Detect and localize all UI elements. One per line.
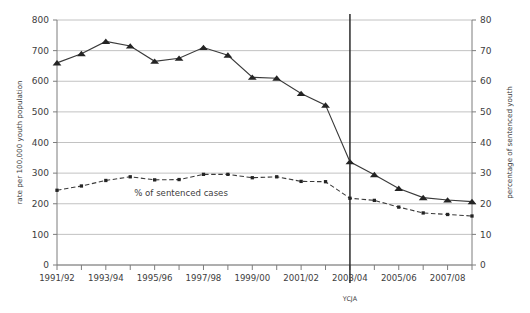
- x-tick-label: 1991/92: [39, 273, 75, 283]
- right-tick-label: 80: [480, 15, 492, 25]
- series-label-sentenced-cases: % of sentenced cases: [134, 188, 228, 198]
- left-axis-title: rate per 100,000 youth population: [15, 80, 24, 204]
- left-tick-label: 700: [32, 46, 49, 56]
- data-point-marker: [80, 184, 83, 187]
- gridlines: [57, 20, 472, 265]
- left-tick-label: 0: [43, 260, 49, 270]
- event-marker-ycja: YCJA: [342, 14, 358, 303]
- data-point-marker: [446, 213, 449, 216]
- data-point-marker: [202, 173, 205, 176]
- series-line-2: [57, 174, 472, 216]
- data-point-marker: [348, 197, 351, 200]
- left-tick-label: 200: [32, 199, 49, 209]
- data-point-marker: [226, 173, 229, 176]
- x-tick-label: 2007/08: [430, 273, 466, 283]
- left-tick-label: 400: [32, 138, 49, 148]
- left-tick-label: 500: [32, 107, 49, 117]
- right-tick-label: 60: [480, 76, 492, 86]
- left-tick-label: 600: [32, 76, 49, 86]
- chart-container: 0100200300400500600700800 01020304050607…: [0, 0, 530, 313]
- x-axis: 1991/921993/941995/961997/981999/002001/…: [39, 265, 472, 283]
- right-tick-label: 20: [480, 199, 492, 209]
- x-tick-label: 1993/94: [88, 273, 124, 283]
- x-tick-label: 1999/00: [234, 273, 270, 283]
- data-point-marker: [346, 159, 355, 164]
- data-point-marker: [422, 211, 425, 214]
- left-tick-label: 800: [32, 15, 49, 25]
- data-point-marker: [104, 179, 107, 182]
- x-tick-label: 2005/06: [381, 273, 417, 283]
- data-point-marker: [129, 175, 132, 178]
- chart-annotations: % of sentenced cases: [134, 188, 228, 198]
- right-tick-label: 0: [480, 260, 486, 270]
- data-point-marker: [299, 180, 302, 183]
- data-point-marker: [153, 178, 156, 181]
- data-point-marker: [397, 205, 400, 208]
- right-axis: 01020304050607080: [472, 15, 492, 270]
- ycja-label: YCJA: [342, 295, 358, 303]
- left-tick-label: 100: [32, 230, 49, 240]
- right-tick-label: 40: [480, 138, 492, 148]
- right-tick-label: 10: [480, 230, 492, 240]
- x-tick-label: 1997/98: [186, 273, 222, 283]
- data-point-marker: [373, 199, 376, 202]
- data-point-marker: [251, 176, 254, 179]
- data-series: [53, 39, 477, 218]
- data-point-marker: [470, 214, 473, 217]
- right-tick-label: 30: [480, 168, 492, 178]
- data-point-marker: [55, 189, 58, 192]
- right-tick-label: 50: [480, 107, 492, 117]
- x-tick-label: 1995/96: [137, 273, 173, 283]
- chart-canvas: 0100200300400500600700800 01020304050607…: [0, 0, 530, 313]
- right-tick-label: 70: [480, 46, 492, 56]
- data-point-marker: [199, 45, 208, 50]
- data-point-marker: [101, 39, 110, 44]
- right-axis-title: percentage of sentenced youth: [505, 86, 514, 199]
- data-point-marker: [53, 60, 62, 65]
- data-point-marker: [324, 180, 327, 183]
- data-point-marker: [223, 52, 232, 57]
- data-point-marker: [177, 178, 180, 181]
- left-tick-label: 300: [32, 168, 49, 178]
- data-point-marker: [275, 175, 278, 178]
- left-axis: 0100200300400500600700800: [32, 15, 57, 270]
- x-tick-label: 2001/02: [283, 273, 319, 283]
